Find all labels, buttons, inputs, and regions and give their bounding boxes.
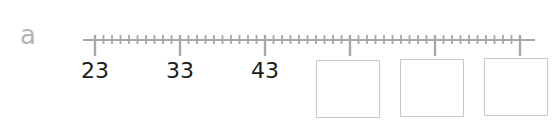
answer-box-1[interactable] [316,60,380,118]
answer-box-2[interactable] [400,59,464,117]
answer-box-3[interactable] [484,58,548,116]
tick-label-23: 23 [81,60,109,82]
tick-label-33: 33 [166,60,194,82]
tick-label-43: 43 [251,60,279,82]
